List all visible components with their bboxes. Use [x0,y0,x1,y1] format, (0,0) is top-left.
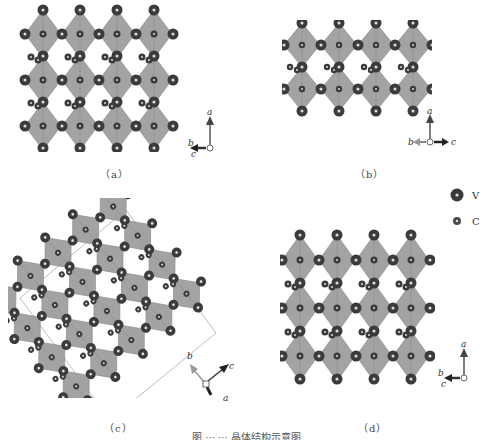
svg-text:c: c [191,149,196,158]
crystal-structure-b [282,20,432,120]
svg-text:c: c [229,361,234,371]
svg-text:a: a [461,340,466,349]
legend: V C [450,182,480,234]
crystal-structure-d [280,228,435,393]
svg-text:b: b [408,137,414,147]
svg-text:c: c [441,379,446,389]
svg-text:a: a [427,108,432,116]
v-atom-icon [450,188,464,202]
crystal-structure-a [18,2,198,152]
panel-label-b: （b） [355,166,384,181]
legend-item-c: C [450,208,480,234]
c-atom-icon [450,214,464,228]
legend-item-v: V [450,182,480,208]
svg-text:c: c [451,137,456,147]
axis-triad-c: b c a [183,345,238,405]
axis-triad-d: a b c [438,340,483,390]
panel-a-structure [18,2,198,152]
svg-text:b: b [438,368,444,378]
panel-d-structure [280,228,435,393]
svg-text:b: b [188,138,194,148]
svg-text:b: b [187,351,193,361]
legend-label-v: V [472,190,479,201]
legend-label-c: C [472,216,480,227]
axis-triad-a: a b c [188,108,228,158]
axis-triad-b: a b c [408,108,458,150]
figure-caption: 图 ··· ··· 晶体结构示意图 [0,429,493,440]
panel-b-structure [282,20,432,120]
svg-text:a: a [207,108,212,117]
panel-label-a: （a） [100,166,129,181]
svg-text:a: a [223,393,228,403]
